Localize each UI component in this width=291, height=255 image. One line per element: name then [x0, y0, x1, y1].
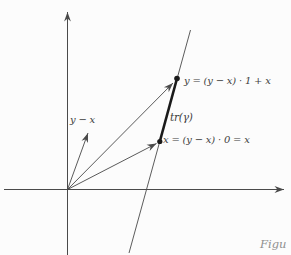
label-point-x: x = (y − x) · 0 = x [163, 134, 250, 146]
point-x-dot [157, 139, 162, 144]
vector-to-y [68, 83, 174, 190]
label-point-y: y = (y − x) · 1 + x [184, 75, 271, 87]
vector-y-minus-x [68, 133, 89, 190]
figure-canvas: y − x y = (y − x) · 1 + x tr(γ) x = (y −… [0, 0, 291, 255]
figure-caption: Figu [260, 237, 286, 251]
point-y-dot [174, 76, 180, 82]
label-trace: tr(γ) [170, 111, 193, 123]
vector-to-x [68, 144, 157, 190]
label-y-minus-x: y − x [70, 114, 95, 126]
vector-diagram [0, 0, 291, 255]
